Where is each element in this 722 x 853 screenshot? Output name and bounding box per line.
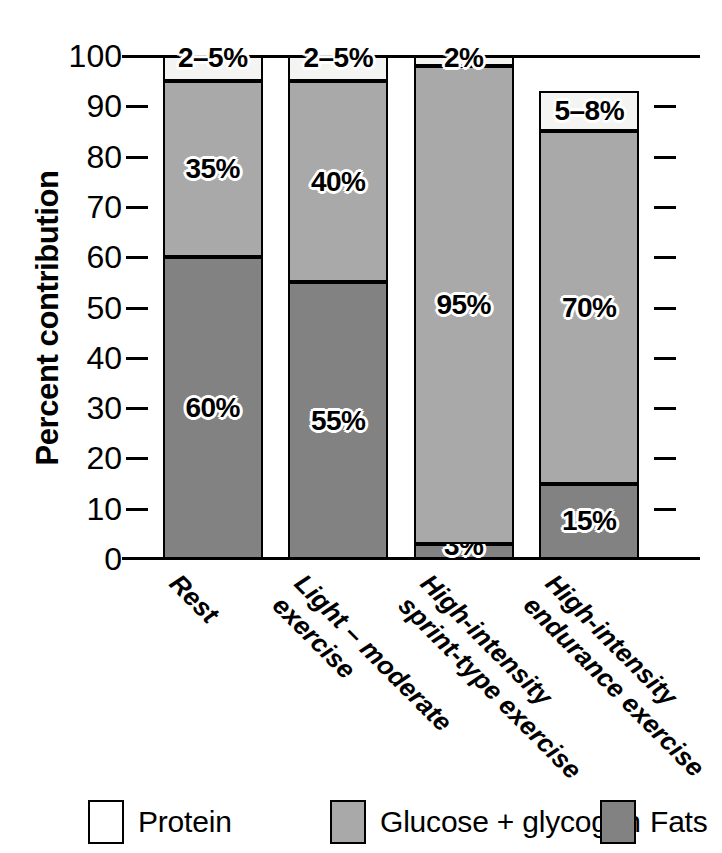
bar-group: 15%70%5–8% [539, 56, 639, 559]
y-axis-tick-label: 70 [44, 188, 122, 225]
bar-segment: 15% [539, 484, 639, 559]
chart-legend: ProteinGlucose + glycogenFats [0, 800, 722, 853]
bar-segment-label: 55% [311, 405, 366, 437]
stacked-bar-chart: Percent contribution 0102030405060708090… [0, 0, 722, 853]
y-axis-tick-mark-right [654, 508, 676, 511]
plot-area: 60%35%2–5%55%40%2–5%3%95%2%15%70%5–8% [150, 56, 652, 559]
bar-segment: 2–5% [288, 56, 388, 81]
x-axis-category-label-line: Rest [163, 568, 225, 630]
y-axis-tick-label: 100 [44, 38, 122, 75]
bar-segment-label: 15% [562, 505, 617, 537]
bar-segment-label: 2% [444, 42, 483, 74]
bar-segment: 2–5% [163, 56, 263, 81]
y-axis-tick-label: 10 [44, 490, 122, 527]
x-axis-category-label: Rest [163, 568, 225, 630]
bar-segment: 35% [163, 81, 263, 257]
y-axis-tick-mark-right [654, 307, 676, 310]
y-axis-tick-mark-left [126, 307, 148, 310]
y-axis-tick-mark-right [654, 357, 676, 360]
bar-group: 60%35%2–5% [163, 56, 263, 559]
bar-segment: 40% [288, 81, 388, 282]
bar-segment-label: 70% [562, 292, 617, 324]
bar-segment-label: 5–8% [554, 95, 624, 127]
bar-segment: 60% [163, 257, 263, 559]
bar-segment-label: 95% [436, 289, 491, 321]
y-axis-tick-label: 80 [44, 138, 122, 175]
x-axis-tick-labels: RestLight – moderateexerciseHigh-intensi… [150, 560, 652, 800]
bar-group: 55%40%2–5% [288, 56, 388, 559]
y-axis-tick-labels: 0102030405060708090100 [22, 56, 122, 559]
bar-segment: 2% [414, 56, 514, 66]
y-axis-tick-mark-right [654, 457, 676, 460]
legend-label: Protein [138, 805, 232, 839]
y-axis-tick-mark-left [126, 256, 148, 259]
bar-segment-label: 2–5% [178, 42, 248, 74]
y-axis-tick-mark-left [126, 206, 148, 209]
legend-item: Protein [88, 800, 232, 844]
y-axis-tick-mark-left [126, 508, 148, 511]
y-axis-tick-mark-right [654, 105, 676, 108]
bar-segment: 55% [288, 282, 388, 559]
y-axis-tick-label: 40 [44, 339, 122, 376]
y-axis-tick-mark-left [126, 357, 148, 360]
y-axis-tick-mark-left [126, 457, 148, 460]
y-axis-tick-label: 50 [44, 289, 122, 326]
bar-segment: 95% [414, 66, 514, 544]
bar-segment-label: 35% [185, 153, 240, 185]
y-axis-tick-mark-right [654, 407, 676, 410]
bar-segment: 5–8% [539, 91, 639, 131]
bar-segment-label: 2–5% [303, 42, 373, 74]
bar-segment-label: 60% [185, 392, 240, 424]
y-axis-tick-mark-right [654, 206, 676, 209]
legend-item: Fats [600, 800, 708, 844]
legend-label: Fats [650, 805, 708, 839]
y-axis-tick-label: 60 [44, 239, 122, 276]
bar-group: 3%95%2% [414, 56, 514, 559]
y-axis-tick-mark-left [126, 105, 148, 108]
bar-segment: 3% [414, 544, 514, 559]
y-axis-tick-label: 30 [44, 390, 122, 427]
bar-segment-label: 40% [311, 166, 366, 198]
bar-segment: 70% [539, 131, 639, 483]
y-axis-tick-mark-left [126, 156, 148, 159]
y-axis-tick-mark-right [654, 156, 676, 159]
y-axis-tick-mark-right [654, 256, 676, 259]
legend-swatch-fats [600, 800, 636, 844]
legend-item: Glucose + glycogen [330, 800, 641, 844]
legend-swatch-protein [88, 800, 124, 844]
y-axis-tick-label: 0 [44, 541, 122, 578]
legend-swatch-glucose [330, 800, 366, 844]
y-axis-tick-mark-left [126, 407, 148, 410]
y-axis-tick-label: 90 [44, 88, 122, 125]
y-axis-tick-label: 20 [44, 440, 122, 477]
